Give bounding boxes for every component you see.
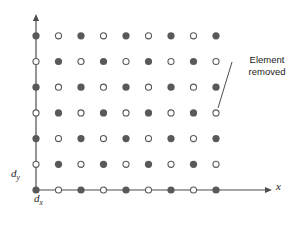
lattice-node-open xyxy=(123,58,129,64)
lattice-node-open xyxy=(190,33,196,39)
lattice-node-open xyxy=(168,58,174,64)
lattice-node-open xyxy=(55,33,61,39)
lattice-node-open xyxy=(145,187,151,193)
lattice-node-filled xyxy=(100,109,107,116)
lattice-node-open xyxy=(168,110,174,116)
lattice-node-filled xyxy=(212,186,219,193)
lattice-node-open xyxy=(190,136,196,142)
lattice-node-open xyxy=(145,84,151,90)
lattice-node-filled xyxy=(122,32,129,39)
lattice-node-filled xyxy=(167,32,174,39)
lattice-node-filled xyxy=(32,32,39,39)
lattice-node-open xyxy=(145,136,151,142)
lattice-figure: dy dx x Element removed xyxy=(0,0,304,226)
lattice-node-open xyxy=(55,187,61,193)
lattice-node-open xyxy=(190,187,196,193)
x-axis-label: x xyxy=(276,181,281,192)
lattice-node-open xyxy=(33,110,39,116)
lattice-node-filled xyxy=(167,135,174,142)
lattice-node-filled xyxy=(145,161,152,168)
lattice-node-open xyxy=(168,161,174,167)
removed-element-marker xyxy=(213,110,219,116)
lattice-node-filled xyxy=(212,84,219,91)
y-spacing-label-subscript: y xyxy=(17,173,20,182)
lattice-node-filled xyxy=(190,161,197,168)
x-spacing-label: dx xyxy=(34,193,43,207)
y-axis-arrowhead xyxy=(33,14,39,21)
lattice-node-filled xyxy=(77,32,84,39)
leader-line xyxy=(218,62,232,108)
lattice-node-open xyxy=(213,58,219,64)
axes-group xyxy=(33,14,272,193)
x-spacing-label-subscript: x xyxy=(40,198,43,207)
lattice-node-filled xyxy=(190,109,197,116)
lattice-node-filled xyxy=(32,135,39,142)
x-axis-arrowhead xyxy=(265,187,272,193)
lattice-node-open xyxy=(190,84,196,90)
element-removed-annotation: Element removed xyxy=(234,54,300,77)
lattice-node-filled xyxy=(145,109,152,116)
lattice-node-open xyxy=(78,110,84,116)
lattice-node-filled xyxy=(77,186,84,193)
lattice-node-open xyxy=(100,33,106,39)
lattice-node-filled xyxy=(167,186,174,193)
lattice-plot xyxy=(0,0,304,226)
lattice-node-filled xyxy=(55,161,62,168)
lattice-node-open xyxy=(145,33,151,39)
lattice-node-open xyxy=(100,187,106,193)
lattice-node-filled xyxy=(190,58,197,65)
lattice-node-filled xyxy=(212,32,219,39)
lattice-node-open xyxy=(123,161,129,167)
lattice-node-filled xyxy=(55,58,62,65)
lattice-node-filled xyxy=(77,84,84,91)
lattice-node-open xyxy=(123,110,129,116)
lattice-node-open xyxy=(33,58,39,64)
lattice-node-filled xyxy=(167,84,174,91)
lattice-node-filled xyxy=(122,135,129,142)
lattice-node-filled xyxy=(77,135,84,142)
lattice-node-filled xyxy=(55,109,62,116)
lattice-node-open xyxy=(33,161,39,167)
lattice-node-filled xyxy=(145,58,152,65)
lattice-node-open xyxy=(55,84,61,90)
lattice-node-open xyxy=(78,161,84,167)
lattice-node-filled xyxy=(212,135,219,142)
lattice-node-open xyxy=(213,161,219,167)
lattice-node-open xyxy=(100,136,106,142)
lattice-node-filled xyxy=(100,58,107,65)
lattice-markers xyxy=(32,32,219,193)
lattice-node-open xyxy=(78,58,84,64)
lattice-node-filled xyxy=(122,84,129,91)
lattice-node-filled xyxy=(32,84,39,91)
lattice-node-open xyxy=(100,84,106,90)
y-spacing-label: dy xyxy=(11,168,20,182)
annotation-line-1: Element xyxy=(234,54,300,66)
lattice-node-filled xyxy=(122,186,129,193)
lattice-node-open xyxy=(55,136,61,142)
annotation-line-2: removed xyxy=(234,66,300,78)
annotation-leader-line xyxy=(218,62,232,108)
lattice-node-filled xyxy=(100,161,107,168)
